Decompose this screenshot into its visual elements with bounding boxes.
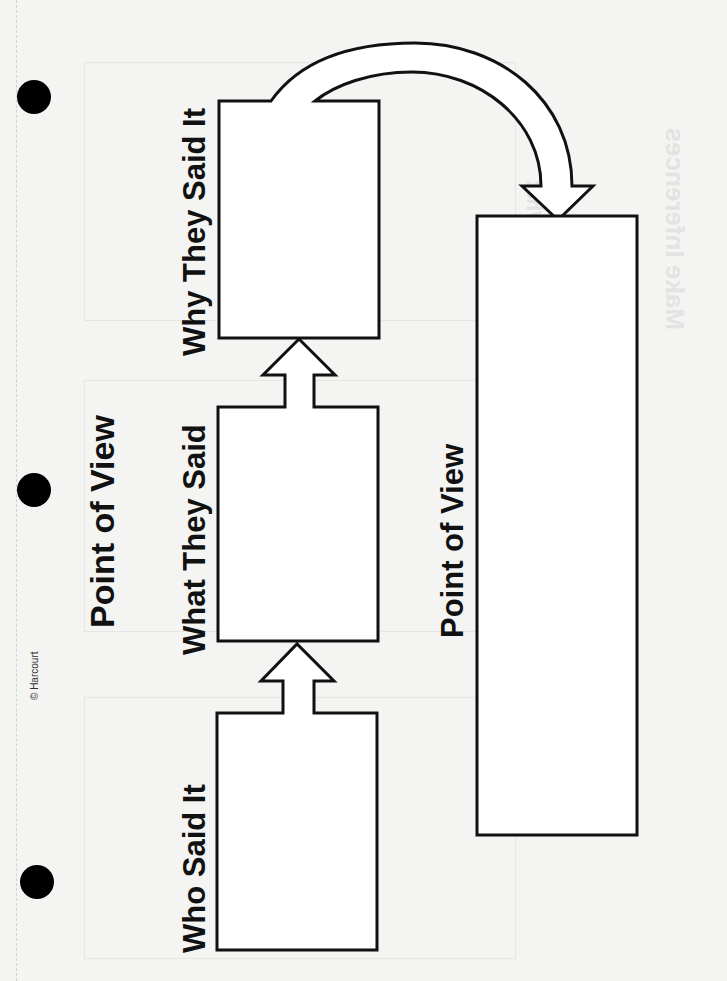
point-of-view-box[interactable] bbox=[477, 216, 637, 835]
who-said-it-box[interactable] bbox=[217, 644, 377, 950]
what-they-said-box[interactable] bbox=[218, 339, 378, 641]
worksheet-page: Make Inferences Why Character Does Infor… bbox=[0, 0, 727, 981]
flow-diagram bbox=[0, 0, 727, 981]
